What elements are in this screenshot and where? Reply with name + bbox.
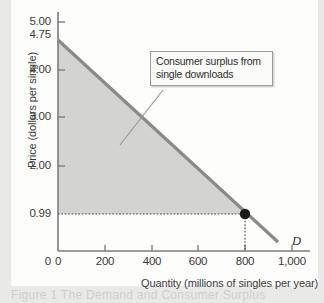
y-axis-title: Price (dollars per single): [26, 35, 38, 185]
annotation-line-1: Consumer surplus from: [156, 55, 267, 68]
x-axis-ticks: [105, 245, 292, 251]
x-tick-label-1000: 1,000: [269, 255, 315, 267]
figure-caption: Figure 1 The Demand and Consumer Surplus: [11, 288, 318, 303]
figure-screenshot: 5.00 4.75 4.00 3.00 2.00 0.99 0 0 200 40…: [0, 0, 324, 303]
figure-panel: 5.00 4.75 4.00 3.00 2.00 0.99 0 0 200 40…: [11, 0, 318, 286]
consumer-surplus-annotation: Consumer surplus from single downloads: [150, 51, 273, 86]
annotation-line-2: single downloads: [156, 68, 267, 81]
x-tick-label-400: 400: [129, 255, 175, 267]
equilibrium-point: [240, 209, 250, 219]
x-tick-label-200: 200: [82, 255, 128, 267]
y-tick-label-500: 5.00: [7, 15, 51, 27]
x-tick-label-800: 800: [222, 255, 268, 267]
chart-plot-area: [11, 0, 318, 286]
x-tick-label-0: 0: [35, 255, 81, 267]
x-tick-label-600: 600: [175, 255, 221, 267]
y-tick-label-099: 0.99: [7, 207, 51, 219]
demand-curve-label: D: [292, 234, 301, 249]
